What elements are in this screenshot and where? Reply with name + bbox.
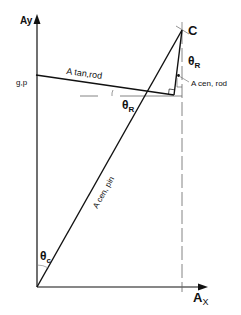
point-c-label: C [188,24,197,37]
origin-gp-label: g,p [16,79,27,87]
theta-r-lower-main: θ [122,98,129,112]
theta-r-lower-sub: R [129,105,135,114]
theta-c-label: θc [40,250,51,262]
theta-r-label-lower: θR [122,99,134,111]
x-axis-label-main: A [193,290,202,305]
theta-r-arc [112,90,113,96]
a-cen-rod-label: A cen, rod [191,80,227,88]
x-axis-label-sub: X [202,297,208,307]
a-tan-rod-line [36,75,174,95]
theta-c-sub: c [47,256,51,265]
x-axis-label: AX [193,291,208,304]
theta-r-upper-main: θ [188,54,195,68]
theta-r-upper-sub: R [195,61,201,70]
a-cen-rod-line [174,30,182,95]
theta-r-label-upper: θR [188,55,200,67]
theta-c-main: θ [40,249,47,263]
y-axis-arrow-icon [34,14,41,24]
right-angle-marker-2 [177,78,182,87]
a-cen-rod-leader [179,76,189,82]
y-axis-label: Ay [20,16,32,26]
a-cen-pin-line [37,30,182,287]
vector-diagram [0,0,241,315]
theta-c-arc [37,265,49,268]
